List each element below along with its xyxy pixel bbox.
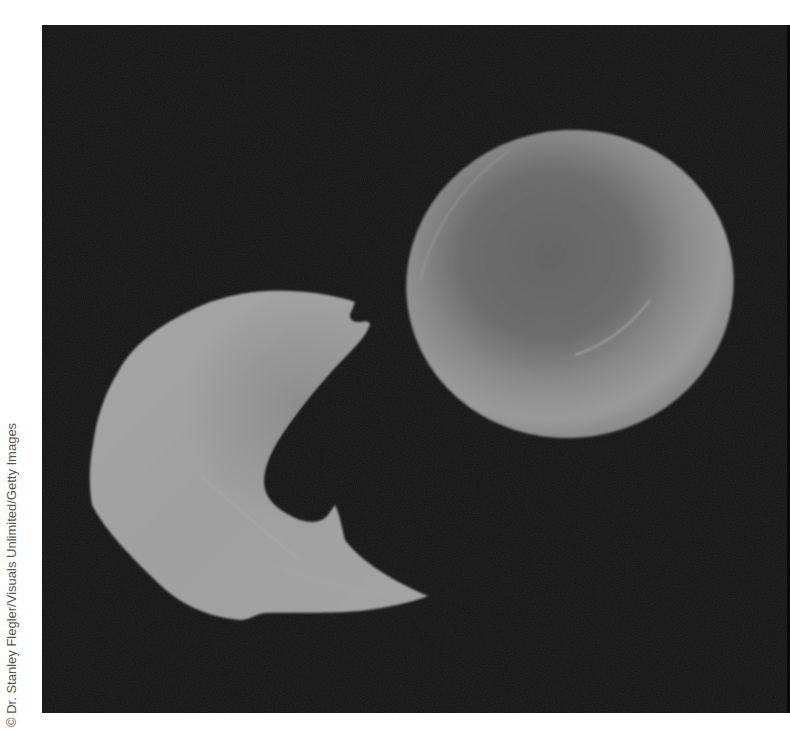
photo-credit: © Dr. Stanley Flegler/Visuals Unlimited/… [4,423,19,727]
micrograph-photo [42,25,790,713]
